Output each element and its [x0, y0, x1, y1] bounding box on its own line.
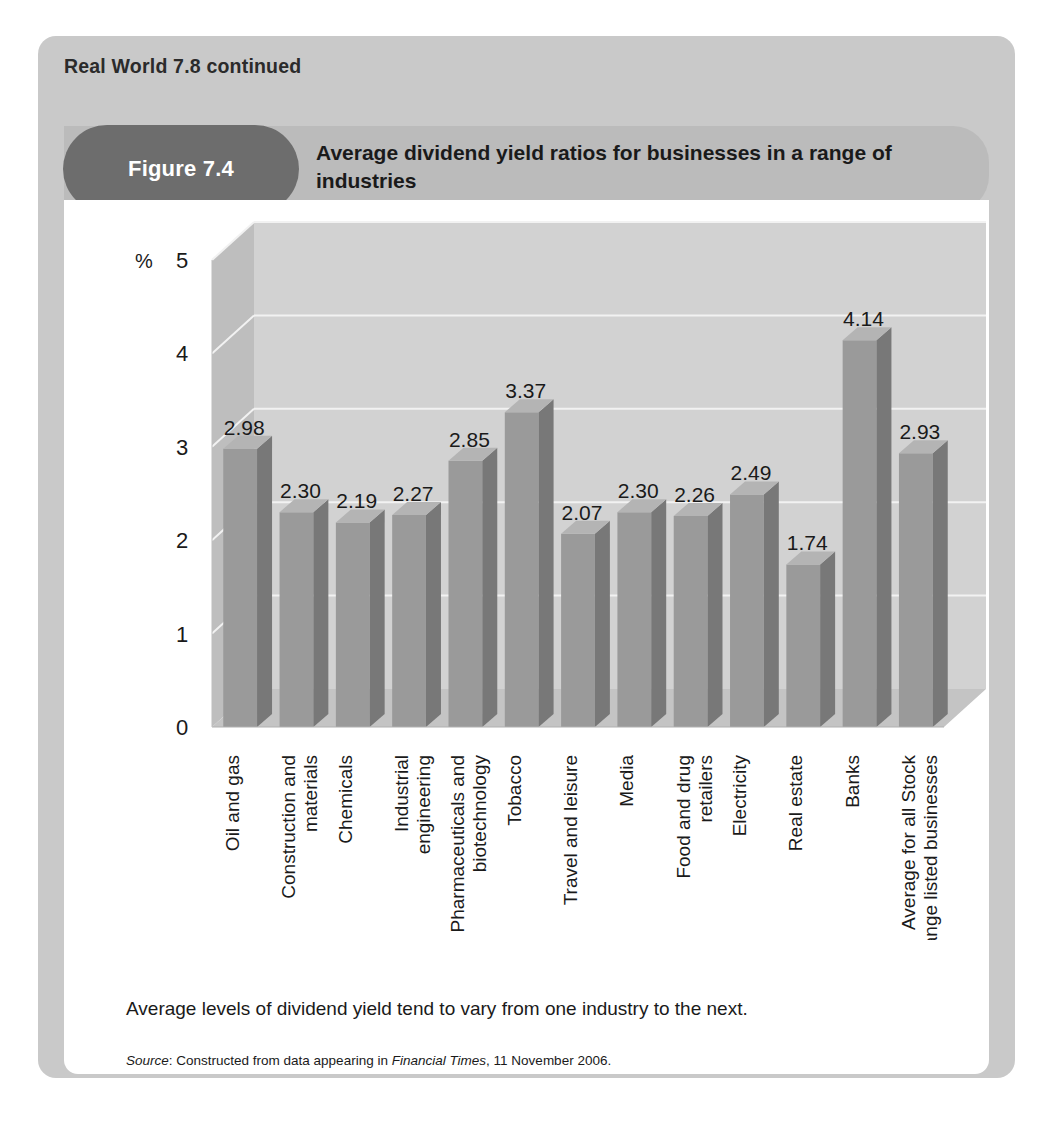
x-axis-category-label: Chemicals — [335, 755, 356, 844]
figure-card: 012345%2.98Oil and gas2.30Construction a… — [64, 200, 989, 1074]
x-axis-category-label: Industrial — [391, 755, 412, 832]
bar-front-face — [561, 534, 595, 727]
x-axis-category-label: Media — [616, 755, 637, 807]
y-axis-tick-label: 0 — [176, 715, 188, 740]
bar-front-face — [223, 449, 257, 727]
dividend-yield-3d-bar-chart: 012345%2.98Oil and gas2.30Construction a… — [64, 200, 989, 940]
x-axis-category-label: Exchange listed businesses — [920, 755, 941, 940]
y-axis-tick-label: 4 — [176, 341, 188, 366]
bar-value-label: 2.93 — [899, 420, 940, 443]
bar-front-face — [899, 453, 933, 727]
figure-source: Source: Constructed from data appearing … — [126, 1053, 611, 1068]
bar-side-face — [708, 503, 723, 727]
bar-side-face — [651, 499, 666, 727]
x-axis-category-label: Travel and leisure — [560, 755, 581, 905]
x-axis-category-label: Construction and — [278, 755, 299, 899]
bar-side-face — [426, 502, 441, 727]
bar-front-face — [392, 515, 426, 727]
bar-side-face — [933, 440, 948, 727]
bar-value-label: 2.26 — [674, 483, 715, 506]
chart-container: 012345%2.98Oil and gas2.30Construction a… — [64, 200, 989, 940]
y-axis-tick-label: 2 — [176, 528, 188, 553]
source-suffix: , 11 November 2006. — [486, 1053, 611, 1068]
x-axis-category-label: Tobacco — [504, 755, 525, 826]
bar-value-label: 2.49 — [730, 461, 771, 484]
real-world-panel: Real World 7.8 continued Figure 7.4 Aver… — [38, 36, 1015, 1078]
y-axis-tick-label: 5 — [176, 248, 188, 273]
bar-side-face — [820, 551, 835, 727]
bar-value-label: 2.98 — [224, 416, 265, 439]
figure-title: Average dividend yield ratios for busine… — [316, 139, 976, 194]
bar-front-face — [730, 494, 764, 727]
source-label: Source — [126, 1053, 169, 1068]
bar-value-label: 4.14 — [843, 307, 884, 330]
x-axis-category-label: Electricity — [729, 755, 750, 837]
bar-value-label: 3.37 — [505, 379, 546, 402]
bar-front-face — [336, 522, 370, 727]
bar-front-face — [786, 564, 820, 727]
bar-side-face — [595, 521, 610, 727]
x-axis-category-label: engineering — [413, 755, 434, 854]
x-axis-category-label: Real estate — [785, 755, 806, 851]
bar-front-face — [505, 412, 539, 727]
y-axis-tick-label: 3 — [176, 435, 188, 460]
bar-side-face — [764, 481, 779, 727]
bar-side-face — [539, 399, 554, 727]
bar-value-label: 2.30 — [280, 479, 321, 502]
bar-front-face — [843, 340, 877, 727]
bar-front-face — [280, 512, 314, 727]
bar-side-face — [370, 509, 385, 727]
x-axis-category-label: retailers — [695, 755, 716, 823]
x-axis-category-label: Food and drug — [673, 755, 694, 879]
y-axis-tick-label: 1 — [176, 622, 188, 647]
bar-front-face — [448, 461, 482, 727]
figure-caption: Average levels of dividend yield tend to… — [126, 998, 748, 1020]
source-publication: Financial Times — [392, 1053, 486, 1068]
bar-side-face — [257, 436, 272, 727]
x-axis-category-label: Banks — [842, 755, 863, 808]
source-prefix: : Constructed from data appearing in — [169, 1053, 392, 1068]
bar-side-face — [876, 327, 891, 727]
bar-value-label: 2.19 — [336, 489, 377, 512]
x-axis-category-label: Average for all Stock — [898, 755, 919, 930]
bar-value-label: 2.07 — [562, 501, 603, 524]
y-axis-unit-label: % — [135, 250, 153, 272]
bar-value-label: 2.27 — [393, 482, 434, 505]
x-axis-category-label: Pharmaceuticals and — [447, 755, 468, 932]
bar-side-face — [313, 499, 328, 727]
bar-value-label: 2.30 — [618, 479, 659, 502]
bar-front-face — [674, 516, 708, 727]
section-heading: Real World 7.8 continued — [64, 55, 301, 78]
bar-value-label: 2.85 — [449, 428, 490, 451]
x-axis-category-label: Oil and gas — [222, 755, 243, 851]
x-axis-category-label: materials — [300, 755, 321, 832]
x-axis-category-label: biotechnology — [469, 755, 490, 873]
bar-value-label: 1.74 — [787, 531, 828, 554]
bar-front-face — [617, 512, 651, 727]
bar-side-face — [482, 448, 497, 727]
